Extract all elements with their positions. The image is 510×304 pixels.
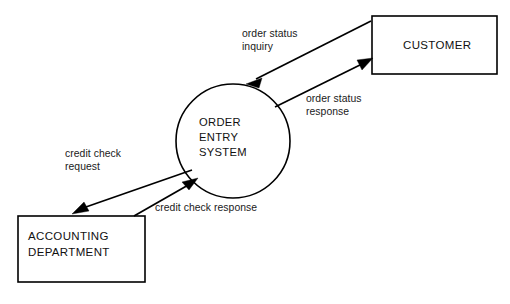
flow-credit-check-request-arrowhead xyxy=(72,202,89,214)
process-label-line1: ORDER xyxy=(199,116,241,128)
flow-credit-check-request-label-line2: request xyxy=(65,161,100,172)
process-label-line3: SYSTEM xyxy=(199,146,247,158)
flow-order-status-response-label-line1: order status xyxy=(306,93,361,104)
entity-accounting-department[interactable]: ACCOUNTING DEPARTMENT xyxy=(18,216,145,282)
entity-accounting-department-label-line1: ACCOUNTING xyxy=(28,230,109,242)
entity-accounting-department-label-line2: DEPARTMENT xyxy=(28,246,110,258)
entity-customer[interactable]: CUSTOMER xyxy=(372,16,497,74)
entity-customer-label: CUSTOMER xyxy=(403,39,471,51)
flow-order-status-response[interactable]: order status response xyxy=(275,58,373,117)
flow-order-status-inquiry-label-line2: inquiry xyxy=(242,41,274,52)
flow-order-status-response-arrowhead xyxy=(357,58,373,70)
flow-order-status-inquiry[interactable]: order status inquiry xyxy=(242,21,371,88)
data-flow-diagram: CUSTOMER ACCOUNTING DEPARTMENT ORDER ENT… xyxy=(0,0,510,304)
flow-credit-check-request-label-line1: credit check xyxy=(65,148,122,159)
flow-order-status-response-label-line2: response xyxy=(306,106,349,117)
flow-credit-check-response-label: credit check response xyxy=(155,202,257,213)
flow-order-status-inquiry-label-line1: order status xyxy=(242,28,297,39)
process-label-line2: ENTRY xyxy=(199,131,238,143)
diagram-canvas: CUSTOMER ACCOUNTING DEPARTMENT ORDER ENT… xyxy=(0,0,510,304)
